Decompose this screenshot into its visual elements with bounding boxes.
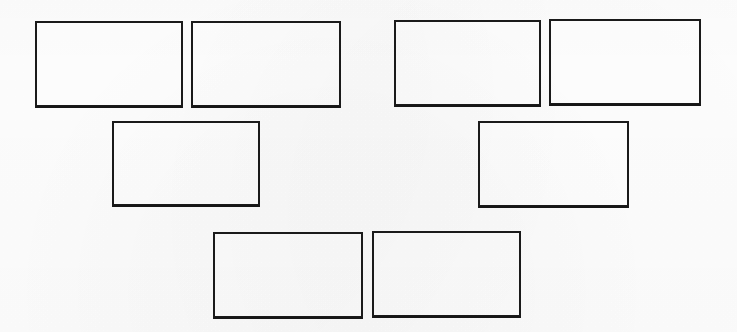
box-6[interactable]: [478, 121, 629, 208]
diagram-canvas: [0, 0, 737, 332]
box-7[interactable]: [213, 232, 363, 319]
box-5[interactable]: [112, 121, 260, 207]
box-4[interactable]: [549, 19, 701, 106]
box-3[interactable]: [394, 20, 541, 107]
box-2[interactable]: [191, 21, 341, 108]
box-1[interactable]: [35, 21, 183, 108]
box-8[interactable]: [372, 231, 521, 318]
